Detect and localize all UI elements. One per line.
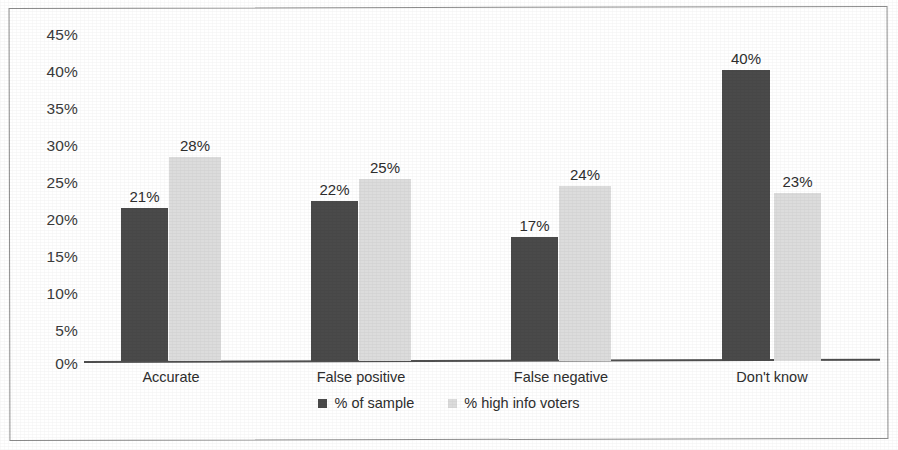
bar-slot: 21% (121, 31, 168, 361)
y-tick-label: 35% (22, 101, 78, 117)
y-tick-label: 20% (22, 212, 78, 228)
y-tick-label: 10% (22, 286, 78, 302)
x-category-label: False positive (291, 370, 431, 385)
bar-value-label: 21% (129, 189, 159, 204)
bar-slot: 24% (559, 31, 611, 361)
chart-figure: 45% 40% 35% 30% 25% 20% 15% 10% 5% 0% 21… (0, 0, 898, 450)
bar-slot: 40% (722, 31, 770, 361)
bar-value-label: 24% (570, 167, 600, 182)
bar-high-info[interactable] (559, 186, 611, 361)
bar-group: 21% 28% (121, 31, 221, 361)
legend-label: % high info voters (464, 396, 579, 411)
bar-value-label: 40% (731, 51, 761, 66)
y-tick-label: 40% (22, 64, 78, 80)
y-axis: 45% 40% 35% 30% 25% 20% 15% 10% 5% 0% (22, 0, 78, 450)
legend-swatch-icon (448, 399, 457, 408)
bar-slot: 23% (774, 31, 821, 361)
bar-group: 22% 25% (311, 31, 411, 361)
bar-group: 17% 24% (511, 31, 611, 361)
x-category-label: False negative (491, 370, 631, 385)
legend-item-high-info[interactable]: % high info voters (448, 396, 579, 411)
bar-high-info[interactable] (359, 179, 411, 361)
bar-value-label: 25% (370, 160, 400, 175)
chart-legend: % of sample % high info voters (0, 396, 898, 411)
legend-item-sample[interactable]: % of sample (318, 396, 414, 411)
x-category-label: Accurate (111, 370, 231, 385)
bar-slot: 22% (311, 31, 358, 361)
bar-high-info[interactable] (774, 193, 821, 361)
bar-sample[interactable] (121, 208, 168, 361)
y-tick-label: 15% (22, 249, 78, 265)
y-tick-label: 30% (22, 138, 78, 154)
bar-sample[interactable] (311, 201, 358, 361)
bar-slot: 25% (359, 31, 411, 361)
bar-group: 40% 23% (722, 31, 821, 361)
y-tick-label: 25% (22, 175, 78, 191)
bar-sample[interactable] (722, 70, 770, 361)
bar-value-label: 23% (782, 174, 812, 189)
bar-slot: 17% (511, 31, 558, 361)
y-tick-label: 0% (22, 356, 78, 372)
bar-high-info[interactable] (169, 157, 221, 361)
y-tick-label: 45% (22, 27, 78, 43)
x-category-label: Don't know (712, 370, 832, 385)
bar-sample[interactable] (511, 237, 558, 361)
plot-area: 45% 40% 35% 30% 25% 20% 15% 10% 5% 0% 21… (0, 0, 898, 450)
bar-value-label: 28% (180, 138, 210, 153)
legend-swatch-icon (318, 399, 327, 408)
legend-label: % of sample (334, 396, 414, 411)
y-tick-label: 5% (22, 323, 78, 339)
bar-value-label: 17% (519, 218, 549, 233)
bar-slot: 28% (169, 31, 221, 361)
bar-value-label: 22% (319, 182, 349, 197)
